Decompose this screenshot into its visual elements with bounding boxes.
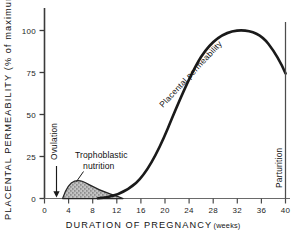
- x-axis-title-main: DURATION OF PREGNANCY: [66, 220, 212, 230]
- x-tick-label-24: 24: [184, 206, 194, 215]
- trophoblastic-label-line1: Trophoblastic: [75, 150, 128, 160]
- x-tick-label-20: 20: [160, 206, 170, 215]
- ovulation-label: Ovulation: [49, 123, 59, 160]
- x-tick-label-0: 0: [42, 206, 47, 215]
- y-tick-label-50: 50: [27, 111, 37, 120]
- x-axis-title-unit: (weeks): [214, 221, 241, 230]
- x-tick-label-16: 16: [136, 206, 146, 215]
- x-tick-label-28: 28: [208, 206, 218, 215]
- x-tick-label-40: 40: [281, 206, 291, 215]
- x-tick-label-36: 36: [257, 206, 267, 215]
- y-tick-label-0: 0: [31, 195, 36, 204]
- x-tick-label-8: 8: [90, 206, 95, 215]
- x-tick-label-32: 32: [233, 206, 243, 215]
- trophoblastic-label-line2: nutrition: [83, 161, 115, 171]
- parturition-label: Parturition: [274, 147, 284, 188]
- chart-svg: 0 25 50 75 100 0 4 8 12 16 20 2: [0, 0, 295, 234]
- chart-figure: 0 25 50 75 100 0 4 8 12 16 20 2: [0, 0, 295, 234]
- x-axis-title: DURATION OF PREGNANCY (weeks): [66, 220, 241, 230]
- x-tick-label-12: 12: [112, 206, 122, 215]
- y-tick-label-75: 75: [27, 69, 37, 78]
- x-tick-label-4: 4: [66, 206, 71, 215]
- y-axis-title: PLACENTAL PERMEABILITY (% of maximum): [3, 0, 13, 220]
- y-tick-label-100: 100: [22, 27, 36, 36]
- y-tick-label-25: 25: [27, 153, 37, 162]
